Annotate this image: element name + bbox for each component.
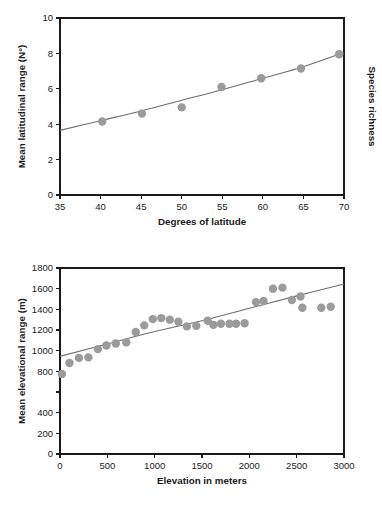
data-point — [296, 292, 304, 300]
data-point — [335, 50, 343, 58]
y-tick-label: 1000 — [32, 345, 53, 356]
data-point — [132, 328, 140, 336]
data-point — [102, 341, 110, 349]
x-tick-label: 70 — [339, 201, 350, 212]
x-tick-label: 500 — [99, 460, 115, 471]
figure-container: 02468103540455055606570Degrees of latitu… — [0, 0, 382, 508]
data-point — [317, 304, 325, 312]
x-tick-label: 1000 — [144, 460, 165, 471]
x-tick-label: 2000 — [239, 460, 260, 471]
data-point — [232, 320, 240, 328]
x-tick-label: 65 — [298, 201, 309, 212]
data-point — [209, 321, 217, 329]
data-point — [174, 318, 182, 326]
data-point — [178, 103, 186, 111]
data-point — [183, 322, 191, 330]
y-tick-label: 800 — [37, 366, 53, 377]
data-point — [75, 354, 83, 362]
data-point — [217, 83, 225, 91]
data-point — [149, 315, 157, 323]
data-point — [288, 296, 296, 304]
data-point — [98, 117, 106, 125]
x-tick-label: 45 — [136, 201, 147, 212]
y-tick-label: 2 — [48, 154, 53, 165]
y-tick-label: 10 — [42, 12, 53, 23]
y-tick-label: 1200 — [32, 324, 53, 335]
x-tick-label: 50 — [176, 201, 187, 212]
x-axis-title: Elevation in meters — [157, 475, 247, 486]
data-point — [259, 297, 267, 305]
x-tick-label: 40 — [95, 201, 106, 212]
data-point — [58, 370, 66, 378]
y-tick-label: 1800 — [32, 262, 53, 273]
y-tick-label: 6 — [48, 83, 53, 94]
data-point — [217, 320, 225, 328]
data-point — [252, 298, 260, 306]
chart-panel-latitude: 02468103540455055606570Degrees of latitu… — [0, 0, 382, 254]
y-tick-label: 400 — [37, 407, 53, 418]
x-tick-label: 60 — [258, 201, 269, 212]
data-point — [269, 284, 277, 292]
data-point — [278, 283, 286, 291]
data-point — [298, 304, 306, 312]
data-point — [65, 359, 73, 367]
data-point — [192, 322, 200, 330]
y-tick-label: 1600 — [32, 283, 53, 294]
y-tick-label: 0 — [48, 189, 53, 200]
x-tick-label: 3000 — [333, 460, 354, 471]
data-point — [138, 109, 146, 117]
x-tick-label: 1500 — [191, 460, 212, 471]
data-point — [94, 345, 102, 353]
x-tick-label: 35 — [55, 201, 66, 212]
y-tick-label: 1400 — [32, 304, 53, 315]
data-point — [84, 353, 92, 361]
y-axis-title: Mean latitudinal range (N°) — [16, 45, 27, 169]
x-tick-label: 55 — [217, 201, 228, 212]
y-tick-label: 200 — [37, 428, 53, 439]
latitude-scatter-plot: 02468103540455055606570Degrees of latitu… — [0, 0, 382, 254]
data-point — [166, 315, 174, 323]
x-tick-label: 0 — [57, 460, 62, 471]
y-tick-label: 0 — [48, 448, 53, 459]
data-point — [112, 339, 120, 347]
x-axis-title: Degrees of latitude — [158, 216, 247, 227]
data-point — [257, 74, 265, 82]
data-point — [240, 319, 248, 327]
y-tick-label: 8 — [48, 48, 53, 59]
data-point — [297, 64, 305, 72]
y-tick-label: 4 — [48, 119, 53, 130]
data-point — [157, 314, 165, 322]
x-tick-label: 2500 — [286, 460, 307, 471]
elevation-scatter-plot: 0200400800100012001400160018000500100015… — [0, 254, 382, 508]
data-point — [140, 321, 148, 329]
right-axis-title: Species richness — [367, 66, 378, 147]
data-point — [327, 303, 335, 311]
data-point — [122, 338, 130, 346]
plot-frame — [60, 18, 344, 195]
y-axis-title: Mean elevational range (m) — [16, 298, 27, 424]
chart-panel-elevation: 0200400800100012001400160018000500100015… — [0, 254, 382, 508]
